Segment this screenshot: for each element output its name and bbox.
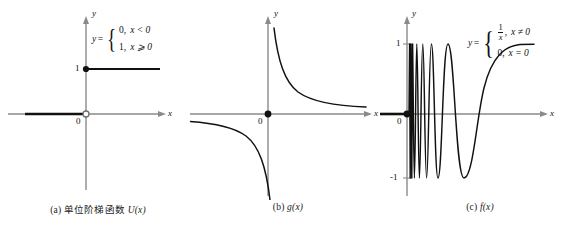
caption-c-prefix: (c) bbox=[466, 202, 477, 212]
x-axis-arrow-c bbox=[540, 111, 548, 117]
y-tick-1-a: 1 bbox=[75, 63, 80, 73]
panel-unit-step-function: y x 0 1 y = { 0, x < 0 1, x ⩾ 0 (a) 单位阶梯… bbox=[0, 0, 196, 237]
y-axis-label-c: y bbox=[412, 8, 416, 18]
panel-reciprocal-function: y x 0 y = { 1 x , x ≠ 0 0, x = 0 bbox=[190, 0, 386, 237]
x-axis-label-b: x bbox=[374, 108, 378, 118]
y-tick-positive-c: 1 bbox=[396, 38, 401, 48]
y-axis-arrow-b bbox=[265, 16, 271, 24]
endpoint-filled-dot-a bbox=[83, 66, 89, 72]
caption-c-function: f(x) bbox=[480, 202, 494, 212]
origin-filled-dot-b bbox=[265, 111, 272, 118]
formula-a-case-1: 1, x ⩾ 0 bbox=[119, 39, 152, 56]
plot-b-svg bbox=[190, 0, 386, 200]
x-axis-arrow-a bbox=[158, 111, 166, 117]
caption-b: (b) g(x) bbox=[190, 202, 386, 212]
x-axis-label-c: x bbox=[550, 108, 554, 118]
formula-a-lhs: y bbox=[92, 34, 96, 44]
formula-a-case-1-condition: x ⩾ 0 bbox=[130, 43, 152, 53]
y-axis-label-b: y bbox=[274, 8, 278, 18]
endpoint-open-circle-a bbox=[83, 111, 89, 117]
y-axis-arrow-a bbox=[83, 16, 89, 24]
caption-a-function: U(x) bbox=[128, 205, 146, 215]
y-axis-arrow-c bbox=[404, 16, 410, 24]
curve-c-oscillating-branch bbox=[409, 44, 534, 178]
curve-b-positive-branch bbox=[274, 28, 366, 107]
origin-label-c: 0 bbox=[397, 116, 402, 126]
caption-b-prefix: (b) bbox=[273, 202, 285, 212]
x-axis-arrow-b bbox=[364, 111, 372, 117]
formula-a-case-1-value: 1, bbox=[119, 43, 126, 53]
formula-a-case-0: 0, x < 0 bbox=[119, 22, 152, 39]
y-axis-label-a: y bbox=[92, 8, 96, 18]
origin-label-b: 0 bbox=[258, 116, 263, 126]
caption-c: (c) f(x) bbox=[380, 202, 580, 212]
caption-a: (a) 单位阶梯函数 U(x) bbox=[0, 202, 196, 216]
y-tick-negative-c: -1 bbox=[390, 172, 398, 182]
figure-piecewise-function-graphs: y x 0 1 y = { 0, x < 0 1, x ⩾ 0 (a) 单位阶梯… bbox=[0, 0, 580, 237]
formula-a-equals: = bbox=[98, 34, 103, 44]
formula-a: y = { 0, x < 0 1, x ⩾ 0 bbox=[92, 22, 152, 56]
formula-a-case-0-value: 0, bbox=[119, 26, 126, 36]
caption-a-prefix: (a) bbox=[50, 205, 61, 215]
formula-a-case-0-condition: x < 0 bbox=[130, 26, 150, 36]
panel-sin-one-over-x-function: y x 0 1 -1 y = { 0, x ⩽ 0 sin 1 x , bbox=[380, 0, 580, 237]
x-axis-label-a: x bbox=[168, 108, 172, 118]
formula-a-cases: 0, x < 0 1, x ⩾ 0 bbox=[119, 22, 152, 56]
curve-b-negative-branch bbox=[190, 121, 270, 200]
caption-b-function: g(x) bbox=[287, 202, 303, 212]
plot-c-svg bbox=[380, 0, 580, 200]
caption-a-cjk: 单位阶梯函数 bbox=[64, 204, 125, 215]
origin-label-a: 0 bbox=[76, 116, 81, 126]
